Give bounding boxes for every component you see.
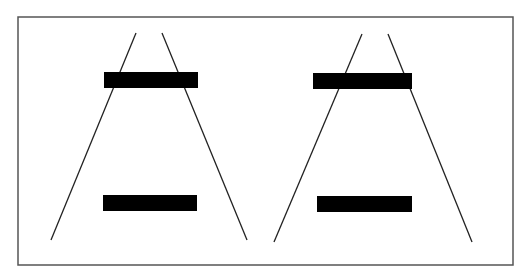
top-bar xyxy=(313,73,412,89)
right-panel xyxy=(274,34,472,242)
top-bar xyxy=(104,72,198,88)
left-panel xyxy=(51,33,247,240)
bottom-bar xyxy=(103,195,197,211)
ponzo-illusion-diagram xyxy=(0,0,531,277)
bottom-bar xyxy=(317,196,412,212)
